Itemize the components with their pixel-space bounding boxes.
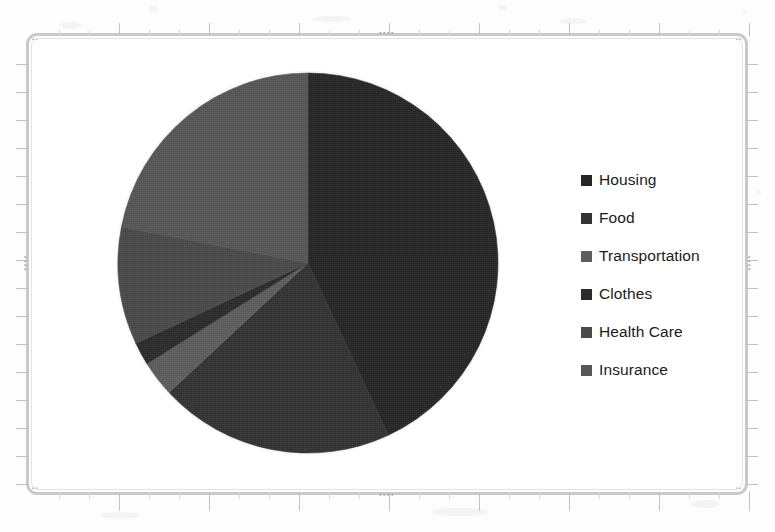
chart-object-frame[interactable]: ▪▪▪▪ ▪▪▪▪ ▪▪▪▪ ▪▪▪▪ ▪▪ ▪▪ ▪▪ ▪▪ HousingF… — [26, 33, 748, 495]
ruler-tick-left — [16, 484, 29, 485]
legend-label-health-care: Health Care — [599, 323, 683, 341]
legend-item-food[interactable]: Food — [581, 199, 741, 237]
scan-artifact — [60, 22, 82, 29]
ruler-tick-left — [16, 148, 29, 149]
scan-artifact — [742, 10, 748, 14]
legend-swatch-housing — [581, 175, 592, 186]
ruler-tick-top — [749, 23, 750, 36]
legend-label-housing: Housing — [599, 171, 657, 189]
ruler-tick-left — [16, 400, 29, 401]
scan-artifact — [498, 5, 507, 10]
ruler-tick-left — [16, 344, 29, 345]
chart-legend: HousingFoodTransportationClothesHealth C… — [581, 161, 741, 389]
scan-artifact — [430, 508, 490, 516]
legend-swatch-insurance — [581, 365, 592, 376]
scan-artifact — [690, 500, 720, 508]
scan-artifact — [100, 512, 140, 519]
pie-slice-group — [118, 73, 498, 453]
ruler-tick-top — [479, 23, 480, 36]
legend-item-housing[interactable]: Housing — [581, 161, 741, 199]
ruler-tick-left — [16, 120, 29, 121]
ruler-tick-top — [299, 23, 300, 36]
scan-artifact — [756, 190, 761, 195]
ruler-tick-left — [16, 204, 29, 205]
ruler-tick-left — [16, 316, 29, 317]
ruler-tick-top — [569, 23, 570, 36]
legend-item-transportation[interactable]: Transportation — [581, 237, 741, 275]
frame-handle-left[interactable]: ▪▪▪▪ — [22, 256, 28, 272]
chart-plot-area: HousingFoodTransportationClothesHealth C… — [29, 36, 751, 498]
legend-swatch-transportation — [581, 251, 592, 262]
legend-item-insurance[interactable]: Insurance — [581, 351, 741, 389]
ruler-tick-left — [16, 176, 29, 177]
ruler-tick-left — [16, 232, 29, 233]
ruler-tick-left — [16, 372, 29, 373]
legend-label-clothes: Clothes — [599, 285, 652, 303]
pie-chart-svg[interactable] — [116, 71, 500, 455]
ruler-tick-top — [119, 23, 120, 36]
pie-chart[interactable] — [116, 71, 500, 455]
legend-item-health-care[interactable]: Health Care — [581, 313, 741, 351]
scan-artifact — [312, 16, 352, 22]
ruler-tick-top — [659, 23, 660, 36]
ruler-tick-left — [16, 456, 29, 457]
legend-label-transportation: Transportation — [599, 247, 700, 265]
legend-label-food: Food — [599, 209, 635, 227]
legend-swatch-health-care — [581, 327, 592, 338]
legend-swatch-clothes — [581, 289, 592, 300]
legend-swatch-food — [581, 213, 592, 224]
ruler-tick-top — [209, 23, 210, 36]
scan-artifact — [148, 6, 159, 12]
legend-label-insurance: Insurance — [599, 361, 668, 379]
legend-item-clothes[interactable]: Clothes — [581, 275, 741, 313]
ruler-tick-left — [16, 92, 29, 93]
ruler-tick-left — [16, 428, 29, 429]
scan-artifact — [560, 18, 586, 24]
ruler-tick-left — [16, 64, 29, 65]
ruler-tick-left — [16, 288, 29, 289]
